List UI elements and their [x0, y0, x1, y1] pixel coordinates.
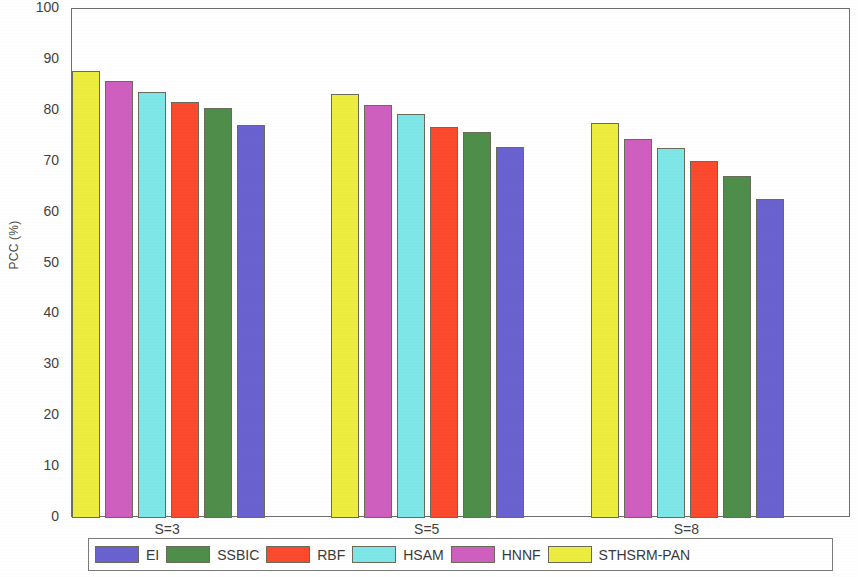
y-axis-tick-label: 30: [43, 355, 59, 371]
x-axis-tick-label: S=3: [154, 521, 179, 537]
bar: [331, 94, 359, 518]
x-axis-tick-label: S=8: [674, 521, 699, 537]
bar: [364, 105, 392, 518]
bar: [72, 71, 100, 518]
chart-legend: EISSBICRBFHSAMHNNFSTHSRM-PAN: [88, 538, 833, 571]
bar: [723, 176, 751, 518]
bar: [624, 139, 652, 518]
legend-swatch-icon: [548, 546, 592, 563]
y-axis-tick-label: 50: [43, 254, 59, 270]
legend-swatch-icon: [266, 546, 310, 563]
y-axis-tick-label: 0: [51, 508, 59, 524]
plot-area: [71, 8, 850, 517]
y-axis-tick-label: 90: [43, 50, 59, 66]
legend-swatch-icon: [166, 546, 210, 563]
y-axis-tick-label: 10: [43, 457, 59, 473]
legend-label: HSAM: [403, 547, 443, 563]
bar: [591, 123, 619, 518]
bar: [463, 132, 491, 518]
legend-swatch-icon: [352, 546, 396, 563]
legend-label: HNNF: [502, 547, 541, 563]
x-axis-tick-label: S=5: [414, 521, 439, 537]
y-axis-tick-label: 70: [43, 152, 59, 168]
bar: [105, 81, 133, 518]
legend-label: STHSRM-PAN: [599, 547, 691, 563]
y-axis-label: PCC (%): [7, 185, 21, 305]
bar: [690, 161, 718, 518]
y-axis-tick-label: 20: [43, 406, 59, 422]
legend-label: EI: [146, 547, 159, 563]
y-axis-tick-label: 80: [43, 101, 59, 117]
bar: [496, 147, 524, 518]
legend-swatch-icon: [451, 546, 495, 563]
bar-chart-figure: PCC (%) 0102030405060708090100 S=3S=5S=8…: [0, 0, 857, 577]
legend-entry-sthsrm-pan[interactable]: STHSRM-PAN: [548, 539, 698, 570]
legend-entry-hnnf[interactable]: HNNF: [451, 539, 548, 570]
legend-label: SSBIC: [217, 547, 259, 563]
bar: [138, 92, 166, 518]
y-axis-tick-label: 100: [36, 0, 59, 15]
legend-entry-hsam[interactable]: HSAM: [352, 539, 450, 570]
legend-label: RBF: [317, 547, 345, 563]
bar: [171, 102, 199, 518]
legend-entry-ssbic[interactable]: SSBIC: [166, 539, 266, 570]
bar: [430, 127, 458, 518]
legend-entry-rbf[interactable]: RBF: [266, 539, 352, 570]
bar: [237, 125, 265, 518]
bar: [756, 199, 784, 518]
bar: [204, 108, 232, 518]
y-axis-tick-label: 40: [43, 304, 59, 320]
bar: [657, 148, 685, 518]
bar: [397, 114, 425, 518]
legend-swatch-icon: [95, 546, 139, 563]
legend-entry-ei[interactable]: EI: [95, 539, 166, 570]
y-axis-tick-label: 60: [43, 203, 59, 219]
